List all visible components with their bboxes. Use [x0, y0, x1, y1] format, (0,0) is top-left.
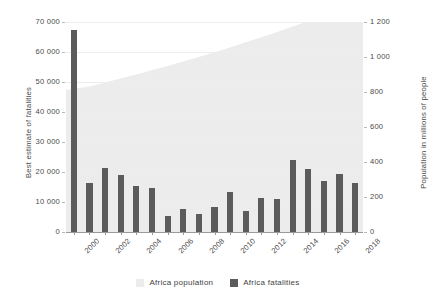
- gridline: [66, 112, 363, 113]
- gridline: [66, 202, 363, 203]
- legend-label: Africa population: [149, 278, 213, 287]
- bar: [336, 174, 342, 233]
- x-axis-tick-label: 2014: [302, 237, 320, 255]
- y-axis-right-tick-label: 1 200: [363, 18, 390, 26]
- bar: [196, 214, 202, 232]
- legend-item[interactable]: Africa population: [136, 278, 213, 287]
- bar: [305, 169, 311, 232]
- legend-swatch-icon: [230, 279, 238, 287]
- bar: [149, 188, 155, 232]
- y-axis-right-tick-mark: [364, 57, 367, 58]
- bar: [290, 160, 296, 232]
- x-axis-tick-mark: [340, 232, 341, 235]
- x-axis-tick-mark: [183, 232, 184, 235]
- x-axis-tick-mark: [168, 232, 169, 235]
- bar: [321, 181, 327, 232]
- x-axis-tick-mark: [121, 232, 122, 235]
- x-axis-tick-label: 2012: [271, 237, 289, 255]
- plot-area: 70 00060 00050 00040 00030 00020 00010 0…: [66, 22, 363, 232]
- x-axis-tick-mark: [261, 232, 262, 235]
- x-axis-tick-mark: [277, 232, 278, 235]
- y-axis-right-tick-mark: [364, 232, 367, 233]
- bar: [227, 192, 233, 232]
- bar: [352, 183, 358, 233]
- x-axis-tick-mark: [215, 232, 216, 235]
- x-axis-tick-mark: [293, 232, 294, 235]
- bar: [258, 198, 264, 233]
- x-axis-tick-mark: [246, 232, 247, 235]
- x-axis-tick-mark: [89, 232, 90, 235]
- gridline: [66, 52, 363, 53]
- x-axis-tick-mark: [152, 232, 153, 235]
- y-axis-left-tick-mark: [62, 232, 65, 233]
- gridline: [66, 142, 363, 143]
- y-axis-left-tick-mark: [62, 112, 65, 113]
- legend-swatch-icon: [136, 279, 144, 287]
- x-axis-tick-mark: [230, 232, 231, 235]
- y-axis-right-tick-label: 1 000: [363, 53, 390, 61]
- x-axis-tick-mark: [105, 232, 106, 235]
- y-axis-right-tick-mark: [364, 92, 367, 93]
- header-fragment: [28, 0, 418, 3]
- x-axis-tick-label: 2000: [83, 237, 101, 255]
- gridline: [66, 82, 363, 83]
- bar: [243, 211, 249, 232]
- bar: [102, 168, 108, 233]
- x-axis-tick-label: 2006: [177, 237, 195, 255]
- y-axis-left-tick-mark: [62, 172, 65, 173]
- x-axis-tick-mark: [199, 232, 200, 235]
- x-axis-tick-label: 2018: [364, 237, 382, 255]
- chart-legend: Africa populationAfrica fatalities: [0, 278, 436, 287]
- x-axis-tick-mark: [308, 232, 309, 235]
- bar: [211, 207, 217, 233]
- bar: [71, 30, 77, 233]
- chart-figure: Best estimate of fatalities Population i…: [0, 0, 436, 306]
- y-axis-right-tick-mark: [364, 162, 367, 163]
- y-axis-left-tick-mark: [62, 52, 65, 53]
- y-axis-right-title: Population in millions of people: [419, 33, 428, 233]
- y-axis-left-tick-mark: [62, 82, 65, 83]
- y-axis-left-tick-mark: [62, 202, 65, 203]
- population-area-series: [66, 22, 363, 232]
- x-axis-tick-label: 2004: [146, 237, 164, 255]
- gridline: [66, 172, 363, 173]
- x-axis-tick-label: 2002: [114, 237, 132, 255]
- bar: [274, 199, 280, 232]
- y-axis-right-tick-mark: [364, 197, 367, 198]
- bar: [133, 186, 139, 233]
- y-axis-left-title: Best estimate of fatalities: [24, 43, 33, 223]
- legend-item[interactable]: Africa fatalities: [230, 278, 299, 287]
- bar: [180, 209, 186, 232]
- x-axis-tick-mark: [136, 232, 137, 235]
- y-axis-left-tick-mark: [62, 22, 65, 23]
- y-axis-right-tick-mark: [364, 127, 367, 128]
- bar: [118, 175, 124, 232]
- x-axis-tick-label: 2016: [333, 237, 351, 255]
- x-axis-tick-label: 2008: [208, 237, 226, 255]
- x-axis-tick-mark: [74, 232, 75, 235]
- bar: [86, 183, 92, 233]
- y-axis-right-tick-mark: [364, 22, 367, 23]
- bar: [165, 216, 171, 232]
- x-axis-tick-mark: [355, 232, 356, 235]
- y-axis-left-tick-mark: [62, 142, 65, 143]
- x-axis-tick-label: 2010: [239, 237, 257, 255]
- x-axis-tick-mark: [324, 232, 325, 235]
- gridline: [66, 22, 363, 23]
- legend-label: Africa fatalities: [243, 278, 299, 287]
